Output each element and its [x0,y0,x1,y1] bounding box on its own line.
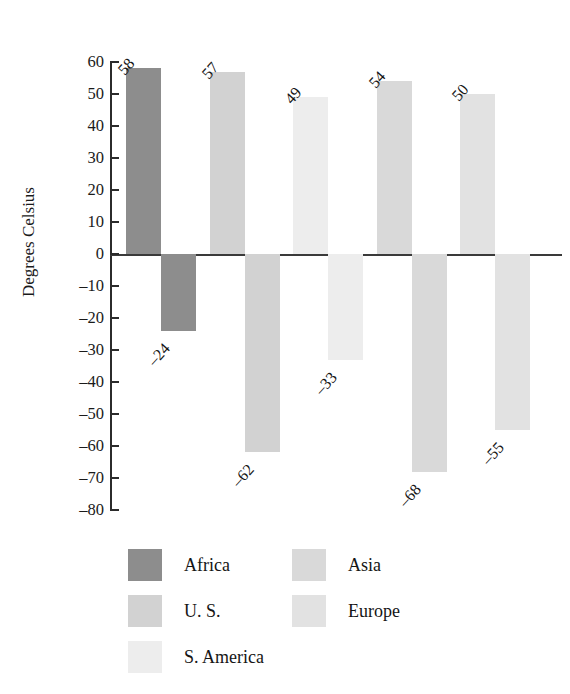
y-axis-tick [110,157,119,158]
y-axis-tick-label: –80 [58,502,104,519]
y-axis-tick-label: –30 [58,342,104,359]
y-axis-tick [110,93,119,94]
y-axis-tick-label-wrap: 40 [56,126,104,127]
y-axis-tick [110,317,119,318]
y-axis-tick-label-wrap: –50 [56,414,104,415]
bar-value-label: –62 [229,462,257,491]
bar-asia-low [412,254,447,472]
legend-label: S. America [184,648,264,666]
y-axis-tick-label-wrap: 50 [56,94,104,95]
legend-label: Europe [348,602,400,620]
y-axis-tick-label-wrap: –60 [56,446,104,447]
bar-asia-high [377,81,412,254]
y-axis-tick-label: 20 [58,182,104,199]
legend-swatch-icon [128,641,162,673]
bar-value-label: –33 [312,369,340,398]
legend-label: U. S. [184,602,221,620]
y-axis-tick [110,253,119,254]
legend-swatch-icon [292,549,326,581]
y-axis-tick-label: 50 [58,86,104,103]
y-axis-tick-label-wrap: 0 [56,254,104,255]
legend-item[interactable]: Asia [292,549,381,581]
bar-africa-high [126,68,161,254]
y-axis-tick [110,349,119,350]
y-axis-tick [110,381,119,382]
y-axis-title: Degrees Celsius [19,167,39,317]
bar-value-label: –68 [396,481,424,510]
y-axis-tick-label: –50 [58,406,104,423]
y-axis-tick [110,477,119,478]
y-axis-tick-label-wrap: 30 [56,158,104,159]
y-axis-tick-label: –20 [58,310,104,327]
bar-europe-high [460,94,495,254]
y-axis-tick [110,413,119,414]
y-axis-tick-label-wrap: 10 [56,222,104,223]
legend-item[interactable]: U. S. [128,595,221,627]
y-axis-tick-label: 0 [58,246,104,263]
y-axis-tick [110,189,119,190]
bar-chart: Degrees Celsius 6050403020100–10–20–30–4… [0,0,570,694]
legend-item[interactable]: Africa [128,549,230,581]
y-axis-tick-label-wrap: –20 [56,318,104,319]
legend-label: Asia [348,556,381,574]
y-axis-tick-label: –40 [58,374,104,391]
y-axis-tick [110,509,119,510]
y-axis-tick-label: –60 [58,438,104,455]
bar-us-low [245,254,280,452]
chart-legend: AfricaAsiaU. S.EuropeS. America [0,543,570,694]
legend-swatch-icon [128,549,162,581]
legend-label: Africa [184,556,230,574]
bar-africa-low [161,254,196,331]
y-axis-tick-label-wrap: –80 [56,510,104,511]
y-axis-tick-label-wrap: –30 [56,350,104,351]
y-axis-tick-label-wrap: 60 [56,62,104,63]
plot-area: Degrees Celsius 6050403020100–10–20–30–4… [0,0,570,540]
y-axis-tick-label: 10 [58,214,104,231]
y-axis-tick-label-wrap: –10 [56,286,104,287]
legend-item[interactable]: Europe [292,595,400,627]
bar-europe-low [495,254,530,430]
y-axis-tick [110,445,119,446]
bar-samerica-high [293,97,328,254]
legend-swatch-icon [292,595,326,627]
legend-swatch-icon [128,595,162,627]
y-axis-tick-label: 60 [58,54,104,71]
y-axis-tick-label: 40 [58,118,104,135]
bar-us-high [210,72,245,254]
y-axis-tick-label: –70 [58,470,104,487]
y-axis-tick-label-wrap: 20 [56,190,104,191]
bar-value-label: –24 [145,340,173,369]
y-axis-tick-label-wrap: –40 [56,382,104,383]
y-axis-tick-label: –10 [58,278,104,295]
bar-value-label: –55 [479,439,507,468]
legend-item[interactable]: S. America [128,641,264,673]
y-axis-tick [110,285,119,286]
bar-samerica-low [328,254,363,360]
y-axis-tick-label-wrap: –70 [56,478,104,479]
y-axis-tick [110,221,119,222]
y-axis-tick [110,125,119,126]
y-axis-tick-label: 30 [58,150,104,167]
